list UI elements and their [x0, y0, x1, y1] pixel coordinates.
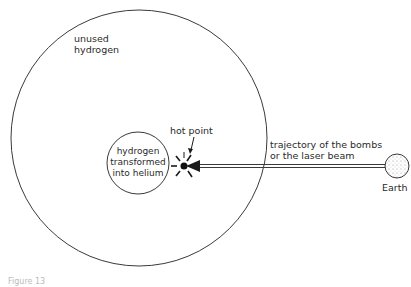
arrowhead-icon: [186, 160, 200, 172]
hot-point-burst-icon: [171, 152, 192, 177]
trajectory-label-line-1: trajectory of the bombs: [270, 139, 382, 150]
outer-hydrogen-sphere: [11, 10, 267, 266]
inner-label-line-2: transformed: [107, 157, 169, 168]
inner-label: hydrogen transformed into helium: [107, 146, 169, 179]
trajectory-beam: [186, 160, 389, 172]
outer-label: unused hydrogen: [74, 33, 119, 55]
outer-label-line-2: hydrogen: [74, 44, 119, 55]
figure-caption: Figure 13: [8, 276, 45, 287]
earth-label: Earth: [382, 182, 407, 193]
hot-point-label: hot point: [170, 125, 213, 136]
earth-icon: [385, 154, 409, 178]
hot-point-pointer-icon: [188, 137, 194, 154]
outer-label-line-1: unused: [74, 33, 119, 44]
inner-label-line-1: hydrogen: [107, 146, 169, 157]
trajectory-label: trajectory of the bombs or the laser bea…: [270, 139, 382, 161]
inner-label-line-3: into helium: [107, 168, 169, 179]
trajectory-label-line-2: or the laser beam: [270, 150, 382, 161]
